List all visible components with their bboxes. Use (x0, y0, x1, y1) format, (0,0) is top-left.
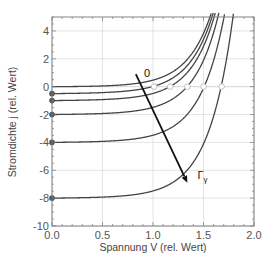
x-tick-label: 2.0 (246, 229, 261, 241)
y-tick-label: 4 (43, 25, 49, 37)
iv-curve (52, 13, 213, 94)
y-tick-label: -6 (39, 164, 49, 176)
grid-lines (52, 17, 254, 226)
y-tick-label: 2 (43, 53, 49, 65)
annotation-zero: 0 (144, 67, 150, 79)
y-tick-label: 0 (43, 81, 49, 93)
y-tick-label: -2 (39, 109, 49, 121)
open-circuit-marker (167, 84, 173, 90)
y-tick-label: -10 (33, 220, 49, 232)
x-tick-label: 1.5 (196, 229, 211, 241)
open-circuit-marker (151, 84, 157, 90)
y-axis-label: Stromdichte j (rel. Wert) (6, 67, 18, 178)
open-circuit-marker (185, 84, 191, 90)
y-tick-labels: 420-2-4-6-8-10 (33, 25, 49, 232)
iv-curve (52, 13, 215, 101)
x-axis-label: Spannung V (rel. Wert) (99, 241, 206, 253)
open-circuit-marker (219, 84, 225, 90)
iv-curve-chart: 0.00.51.01.52.0 420-2-4-6-8-10 Spannung … (0, 0, 276, 273)
iv-curve (52, 13, 211, 86)
x-tick-label: 0.5 (95, 229, 110, 241)
x-tick-label: 1.0 (145, 229, 160, 241)
y-tick-label: -4 (39, 136, 49, 148)
x-tick-labels: 0.00.51.01.52.0 (44, 229, 261, 241)
gamma-arrow (136, 74, 185, 176)
open-circuit-marker (201, 84, 207, 90)
annotation-gamma: Γγ (197, 169, 207, 184)
y-tick-label: -8 (39, 192, 49, 204)
